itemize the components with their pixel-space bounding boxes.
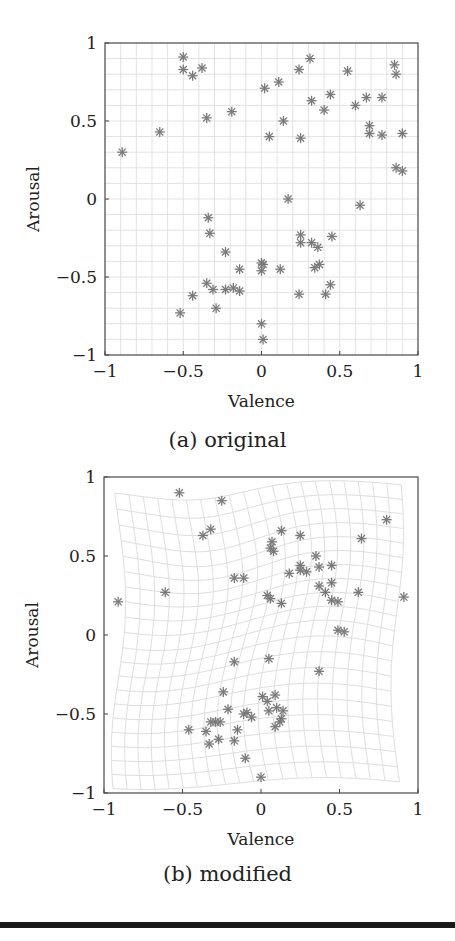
- asterisk-marker: [232, 725, 242, 735]
- asterisk-marker: [276, 598, 286, 608]
- asterisk-marker: [258, 334, 268, 344]
- asterisk-marker: [275, 264, 285, 274]
- scatter-plot-modified: −1−1−0.5−0.5000.50.511ValenceArousal: [0, 460, 455, 920]
- y-tick-label: −0.5: [55, 704, 96, 724]
- asterisk-marker: [201, 726, 211, 736]
- asterisk-marker: [343, 66, 353, 76]
- asterisk-marker: [276, 714, 286, 724]
- asterisk-marker: [215, 717, 225, 727]
- asterisk-marker: [264, 132, 274, 142]
- asterisk-marker: [382, 515, 392, 525]
- caption-modified: (b) modified: [0, 862, 455, 886]
- asterisk-marker: [235, 286, 245, 296]
- x-tick-label: 0.5: [326, 799, 353, 819]
- asterisk-marker: [327, 560, 337, 570]
- asterisk-marker: [214, 734, 224, 744]
- asterisk-marker: [188, 71, 198, 81]
- asterisk-marker: [174, 488, 184, 498]
- x-axis-label: Valence: [227, 829, 295, 849]
- asterisk-marker: [314, 562, 324, 572]
- asterisk-marker: [325, 89, 335, 99]
- asterisk-marker: [160, 587, 170, 597]
- asterisk-marker: [294, 289, 304, 299]
- asterisk-marker: [278, 706, 288, 716]
- chart-panel-modified: −1−1−0.5−0.5000.50.511ValenceArousal: [0, 460, 455, 920]
- asterisk-marker: [284, 568, 294, 578]
- asterisk-marker: [399, 592, 409, 602]
- asterisk-marker: [350, 100, 360, 110]
- asterisk-marker: [314, 260, 324, 270]
- asterisk-marker: [258, 260, 268, 270]
- asterisk-marker: [270, 690, 280, 700]
- asterisk-marker: [296, 133, 306, 143]
- asterisk-marker: [202, 113, 212, 123]
- asterisk-marker: [178, 52, 188, 62]
- asterisk-marker: [296, 238, 306, 248]
- asterisk-marker: [113, 597, 123, 607]
- asterisk-marker: [211, 303, 221, 313]
- asterisk-marker: [295, 530, 305, 540]
- asterisk-marker: [218, 687, 228, 697]
- asterisk-marker: [320, 587, 330, 597]
- data-points: [117, 52, 407, 344]
- asterisk-marker: [276, 526, 286, 536]
- y-tick-label: −0.5: [56, 267, 97, 287]
- asterisk-marker: [247, 712, 257, 722]
- asterisk-marker: [204, 739, 214, 749]
- asterisk-marker: [307, 238, 317, 248]
- asterisk-marker: [377, 130, 387, 140]
- horizontal-rule: [0, 922, 455, 928]
- x-tick-label: 1: [413, 361, 424, 381]
- grid: [111, 481, 403, 790]
- asterisk-marker: [203, 213, 213, 223]
- y-tick-label: 1: [85, 467, 96, 487]
- asterisk-marker: [278, 116, 288, 126]
- asterisk-marker: [229, 573, 239, 583]
- asterisk-marker: [208, 284, 218, 294]
- y-axis-label: Arousal: [22, 602, 42, 669]
- asterisk-marker: [175, 308, 185, 318]
- asterisk-marker: [397, 128, 407, 138]
- asterisk-marker: [264, 654, 274, 664]
- asterisk-marker: [188, 291, 198, 301]
- asterisk-marker: [327, 578, 337, 588]
- x-tick-label: −0.5: [162, 799, 203, 819]
- asterisk-marker: [355, 200, 365, 210]
- asterisk-marker: [327, 595, 337, 605]
- asterisk-marker: [311, 551, 321, 561]
- asterisk-marker: [257, 319, 267, 329]
- grid: [105, 43, 418, 355]
- asterisk-marker: [229, 736, 239, 746]
- asterisk-marker: [377, 93, 387, 103]
- asterisk-marker: [321, 289, 331, 299]
- asterisk-marker: [319, 105, 329, 115]
- y-tick-label: −1: [72, 345, 97, 365]
- asterisk-marker: [221, 284, 231, 294]
- y-tick-label: 0.5: [69, 546, 96, 566]
- asterisk-marker: [197, 63, 207, 73]
- asterisk-marker: [217, 496, 227, 506]
- y-tick-label: 0: [85, 625, 96, 645]
- asterisk-marker: [206, 524, 216, 534]
- asterisk-marker: [353, 587, 363, 597]
- x-tick-label: 0.5: [326, 361, 353, 381]
- asterisk-marker: [391, 69, 401, 79]
- asterisk-marker: [229, 657, 239, 667]
- y-tick-label: 1: [86, 33, 97, 53]
- asterisk-marker: [361, 93, 371, 103]
- asterisk-marker: [240, 753, 250, 763]
- asterisk-marker: [364, 128, 374, 138]
- asterisk-marker: [339, 627, 349, 637]
- asterisk-marker: [117, 147, 127, 157]
- asterisk-marker: [294, 65, 304, 75]
- asterisk-marker: [262, 696, 272, 706]
- x-tick-label: 0: [256, 361, 267, 381]
- asterisk-marker: [307, 96, 317, 106]
- asterisk-marker: [178, 65, 188, 75]
- asterisk-marker: [390, 60, 400, 70]
- asterisk-marker: [356, 534, 366, 544]
- y-tick-label: 0: [86, 189, 97, 209]
- asterisk-marker: [397, 166, 407, 176]
- asterisk-marker: [267, 537, 277, 547]
- asterisk-marker: [223, 704, 233, 714]
